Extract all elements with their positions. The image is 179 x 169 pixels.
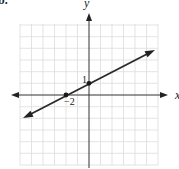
y-intercept-label: 1 — [82, 75, 87, 85]
x-axis-right-arrow-icon — [160, 92, 168, 98]
coordinate-plane — [0, 0, 179, 169]
line-arrow-upper-right-icon — [145, 50, 156, 57]
y-axis-label: y — [84, 0, 89, 9]
y-axis — [86, 13, 92, 168]
point-y-intercept — [87, 81, 92, 86]
x-axis-label: x — [175, 89, 179, 101]
line-arrow-lower-left-icon — [23, 111, 34, 118]
y-axis-up-arrow-icon — [86, 13, 92, 21]
x-intercept-label: −2 — [64, 97, 75, 107]
part-label: b. — [0, 0, 8, 6]
x-axis-left-arrow-icon — [11, 92, 19, 98]
